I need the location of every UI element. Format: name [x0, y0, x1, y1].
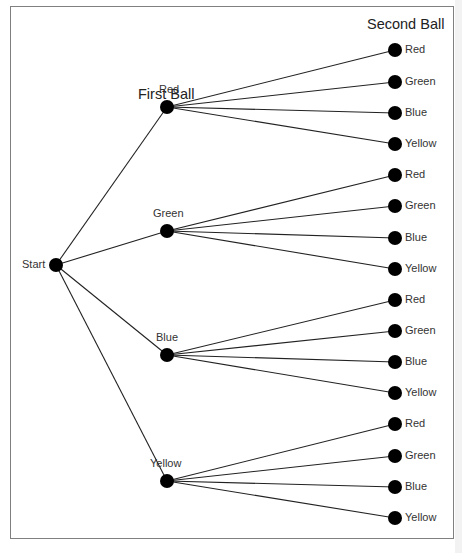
branch-line [167, 456, 395, 481]
tree-diagram [0, 0, 462, 553]
second-ball-node [388, 293, 402, 307]
second-ball-label: Green [405, 449, 436, 461]
second-ball-node [388, 480, 402, 494]
second-ball-label: Green [405, 75, 436, 87]
branch-line [167, 82, 395, 107]
second-ball-label: Red [405, 293, 425, 305]
second-ball-label: Yellow [405, 511, 436, 523]
second-ball-label: Red [405, 168, 425, 180]
second-ball-label: Green [405, 199, 436, 211]
second-ball-label: Yellow [405, 386, 436, 398]
branch-line [167, 206, 395, 231]
first-ball-node [160, 474, 174, 488]
second-ball-node [388, 231, 402, 245]
first-ball-label: Green [153, 207, 184, 219]
second-ball-label: Blue [405, 106, 427, 118]
second-ball-node [388, 324, 402, 338]
branch-line [167, 331, 395, 355]
branch-line [167, 424, 395, 481]
second-ball-node [388, 199, 402, 213]
second-ball-label: Blue [405, 480, 427, 492]
second-ball-node [388, 449, 402, 463]
second-ball-node [388, 137, 402, 151]
second-ball-label: Blue [405, 355, 427, 367]
second-ball-label: Red [405, 417, 425, 429]
branch-line [167, 300, 395, 355]
first-ball-node [160, 348, 174, 362]
branch-line [167, 50, 395, 107]
second-ball-node [388, 386, 402, 400]
first-ball-label: Blue [156, 331, 178, 343]
second-ball-label: Red [405, 43, 425, 55]
branch-line [56, 265, 167, 481]
second-ball-node [388, 168, 402, 182]
second-ball-node [388, 355, 402, 369]
second-ball-node [388, 262, 402, 276]
second-ball-label: Yellow [405, 137, 436, 149]
second-ball-node [388, 511, 402, 525]
second-ball-node [388, 43, 402, 57]
start-label: Start [22, 258, 45, 270]
first-ball-node [160, 224, 174, 238]
second-ball-node [388, 417, 402, 431]
first-ball-label: Yellow [150, 457, 181, 469]
branch-line [56, 231, 167, 265]
branch-line [167, 175, 395, 231]
first-ball-node [160, 100, 174, 114]
second-ball-label: Blue [405, 231, 427, 243]
start-node [49, 258, 63, 272]
second-ball-label: Yellow [405, 262, 436, 274]
first-ball-label: Red [159, 83, 179, 95]
second-ball-node [388, 75, 402, 89]
second-ball-label: Green [405, 324, 436, 336]
second-ball-node [388, 106, 402, 120]
branch-line [56, 107, 167, 265]
branch-line [56, 265, 167, 355]
